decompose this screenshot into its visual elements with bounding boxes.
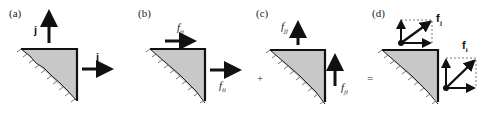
plus-operator: + [257, 72, 263, 84]
force-label-fi: fi [462, 39, 468, 54]
panel-b: (b) fij fii [138, 7, 236, 103]
vector-label-i: i [96, 51, 99, 63]
panel-a: (a) j i [9, 7, 108, 102]
force-label-fii: fii [219, 79, 226, 94]
panel-d: (d) fj fi [372, 7, 476, 104]
force-label-fjj: fjj [281, 20, 288, 35]
vector-label-j: j [33, 24, 37, 36]
resultant-fi: fi [443, 39, 476, 91]
force-label-fji: fji [341, 81, 348, 96]
panel-label-a: (a) [9, 7, 22, 20]
panel-c: (c) fjj fji [256, 7, 348, 104]
panel-label-c: (c) [256, 7, 269, 20]
force-decomposition-diagram: (a) j i (b) fij fii + (c) fjj fji = (d [0, 0, 486, 118]
equals-operator: = [367, 72, 373, 84]
force-label-fj: fj [436, 12, 442, 27]
panel-label-d: (d) [372, 7, 385, 20]
force-label-fij: fij [177, 21, 184, 36]
panel-label-b: (b) [138, 7, 151, 20]
resultant-fj: fj [398, 12, 442, 46]
